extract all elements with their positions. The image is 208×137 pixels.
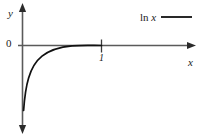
figure-container: y x 0 1 ln x — [0, 0, 208, 137]
x-tick-label-1: 1 — [99, 53, 104, 63]
legend-function-arg: x — [151, 11, 156, 23]
y-axis-arrow-up — [19, 3, 26, 12]
legend-label: ln x — [140, 11, 156, 23]
y-axis-label: y — [8, 8, 13, 19]
y-axis-arrow-down — [19, 125, 26, 134]
legend-function-name: ln — [140, 11, 149, 23]
legend-line-swatch — [161, 14, 192, 20]
legend: ln x — [140, 11, 192, 23]
x-axis-arrow-right — [187, 42, 196, 49]
origin-label: 0 — [6, 38, 12, 49]
ln-curve — [24, 45, 102, 110]
x-axis-label: x — [188, 57, 193, 68]
